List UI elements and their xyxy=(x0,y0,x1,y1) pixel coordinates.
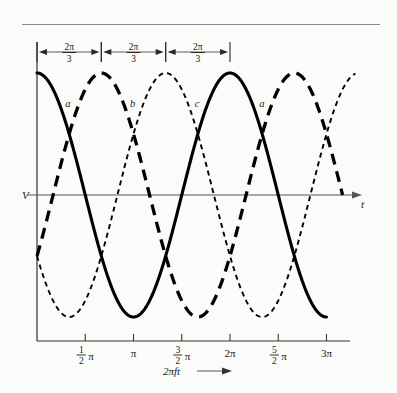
waveform-plot: 2π32π32π3 abca V t 12ππ32π2π52π3π 2πft xyxy=(0,0,397,393)
x-axis-tick-label: 3π xyxy=(321,347,333,359)
curve-label-a: a xyxy=(65,98,70,109)
x-axis-tick-labels: 12ππ32π2π52π3π xyxy=(77,345,333,366)
t-axis-label: t xyxy=(361,198,365,210)
x-axis-ticks xyxy=(85,334,326,341)
phase-marker-arrowhead-left-icon xyxy=(168,49,176,55)
x-axis-tick-label: 2π xyxy=(224,347,236,359)
phase-marker-arrowhead-right-icon xyxy=(220,49,228,55)
curve-label-a: a xyxy=(259,98,264,109)
phase-marker-label-denominator: 3 xyxy=(67,54,72,64)
x-axis-tick-label-denominator: 2 xyxy=(272,356,277,366)
curve-labels: abca xyxy=(65,98,264,109)
figure-page: 2π32π32π3 abca V t 12ππ32π2π52π3π 2πft xyxy=(0,0,397,393)
phase-marker-label-denominator: 3 xyxy=(131,54,136,64)
phase-marker-arrowhead-left-icon xyxy=(39,49,47,55)
x-axis-caption-arrowhead-icon xyxy=(222,368,232,375)
phase-marker-label-denominator: 3 xyxy=(195,54,200,64)
phase-marker-arrowhead-left-icon xyxy=(103,49,111,55)
phase-marker-label-numerator: 2π xyxy=(129,42,139,52)
x-axis-tick-label: π xyxy=(131,347,137,359)
x-axis-tick-label-symbol: π xyxy=(88,350,94,362)
curve-label-c: c xyxy=(195,98,200,109)
phase-marker-arrowhead-right-icon xyxy=(156,49,164,55)
curve-label-b: b xyxy=(130,98,135,109)
x-axis-tick-label-numerator: 1 xyxy=(79,345,84,355)
phase-marker-label-numerator: 2π xyxy=(64,42,74,52)
x-axis-tick-label-numerator: 3 xyxy=(175,345,180,355)
x-axis-tick-label-symbol: π xyxy=(185,350,191,362)
x-axis-tick-label-denominator: 2 xyxy=(79,356,84,366)
phase-interval-markers: 2π32π32π3 xyxy=(37,42,230,64)
x-axis-tick-label-numerator: 5 xyxy=(272,345,277,355)
x-axis-caption: 2πft xyxy=(163,365,181,377)
phase-marker-label-numerator: 2π xyxy=(193,42,203,52)
x-axis-tick-label-symbol: π xyxy=(281,350,287,362)
phase-marker-arrowhead-right-icon xyxy=(91,49,99,55)
